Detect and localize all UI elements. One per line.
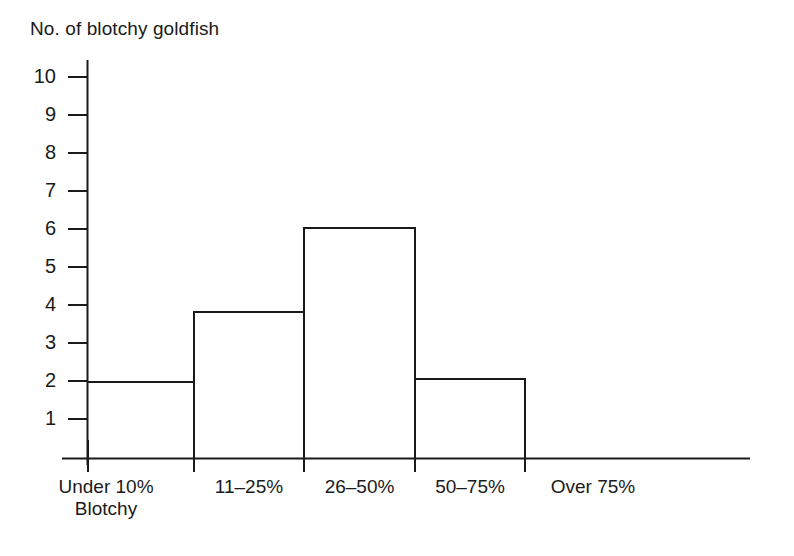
- y-tick-label-8: 8: [22, 142, 56, 162]
- y-tick-label-4: 4: [22, 294, 56, 314]
- x-tick-label-26-50: 26–50%: [304, 476, 415, 498]
- x-axis-ticks: [88, 440, 525, 472]
- bar-50-75: [415, 379, 525, 458]
- y-tick-label-7: 7: [22, 180, 56, 200]
- x-tick-label-over-75: Over 75%: [528, 476, 658, 498]
- y-tick-label-3: 3: [22, 332, 56, 352]
- bar-26-50: [304, 228, 415, 458]
- y-tick-label-1: 1: [22, 408, 56, 428]
- bar-11-25: [194, 312, 304, 458]
- y-tick-label-10: 10: [22, 66, 56, 86]
- y-tick-label-6: 6: [22, 218, 56, 238]
- chart-plot-area: [0, 0, 794, 556]
- histogram-bars: [88, 228, 525, 458]
- x-tick-label-50-75: 50–75%: [415, 476, 525, 498]
- y-tick-label-2: 2: [22, 370, 56, 390]
- y-axis-ticks: [68, 77, 88, 419]
- x-axis-sub-label: Blotchy: [51, 498, 161, 520]
- x-tick-label-under-10-text: Under 10%: [58, 476, 153, 497]
- y-tick-label-5: 5: [22, 256, 56, 276]
- x-tick-label-under-10: Under 10% Blotchy: [51, 476, 161, 521]
- y-tick-label-9: 9: [22, 104, 56, 124]
- bar-under-10: [88, 382, 194, 458]
- x-tick-label-11-25: 11–25%: [194, 476, 304, 498]
- histogram-chart: No. of blotchy goldfish: [0, 0, 794, 556]
